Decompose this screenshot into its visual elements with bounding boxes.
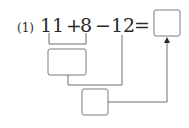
step2-box[interactable] bbox=[82, 89, 108, 115]
operator-minus: − bbox=[95, 14, 111, 36]
calculation-flow-diagram: (1) 11 + 8 − 12 = bbox=[0, 0, 189, 128]
connector-step2-to-answer bbox=[108, 41, 167, 102]
step1-box[interactable] bbox=[48, 49, 86, 75]
operator-equals: = bbox=[134, 14, 150, 36]
answer-box[interactable] bbox=[154, 10, 180, 36]
arrow-up-icon bbox=[164, 37, 170, 43]
term-8: 8 bbox=[80, 14, 92, 36]
problem-number: (1) bbox=[17, 21, 34, 35]
term-12: 12 bbox=[111, 14, 135, 36]
term-11: 11 bbox=[40, 14, 64, 36]
